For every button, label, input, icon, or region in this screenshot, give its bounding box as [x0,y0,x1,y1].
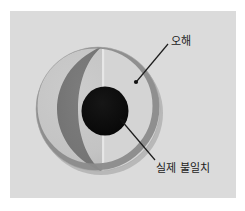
screenshot-canvas: 오해 실제 불일치 [0,0,245,211]
inner-black-ellipse [82,87,129,136]
diagram-svg [0,0,245,211]
label-misunderstanding: 오해 [171,35,191,47]
label-actual-mismatch: 실제 불일치 [156,162,210,174]
